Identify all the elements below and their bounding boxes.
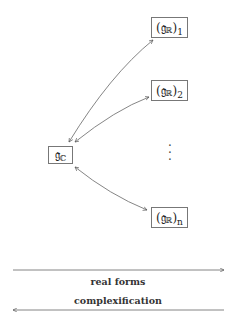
label-complexification: complexification — [0, 295, 236, 306]
arrow-c-to-rn — [75, 167, 147, 210]
node-g-c: 𝔤ℂ — [48, 146, 73, 164]
node-g-r-2: (𝔤ℝ)2 — [151, 80, 188, 101]
arrow-c-to-r1 — [69, 40, 153, 142]
node-g-r-1: (𝔤ℝ)1 — [151, 17, 188, 38]
ellipsis-vertical: ··· — [168, 143, 172, 164]
arrow-c-to-r2 — [75, 97, 149, 142]
node-g-r-n: (𝔤ℝ)n — [151, 207, 188, 228]
label-real-forms: real forms — [0, 276, 236, 287]
